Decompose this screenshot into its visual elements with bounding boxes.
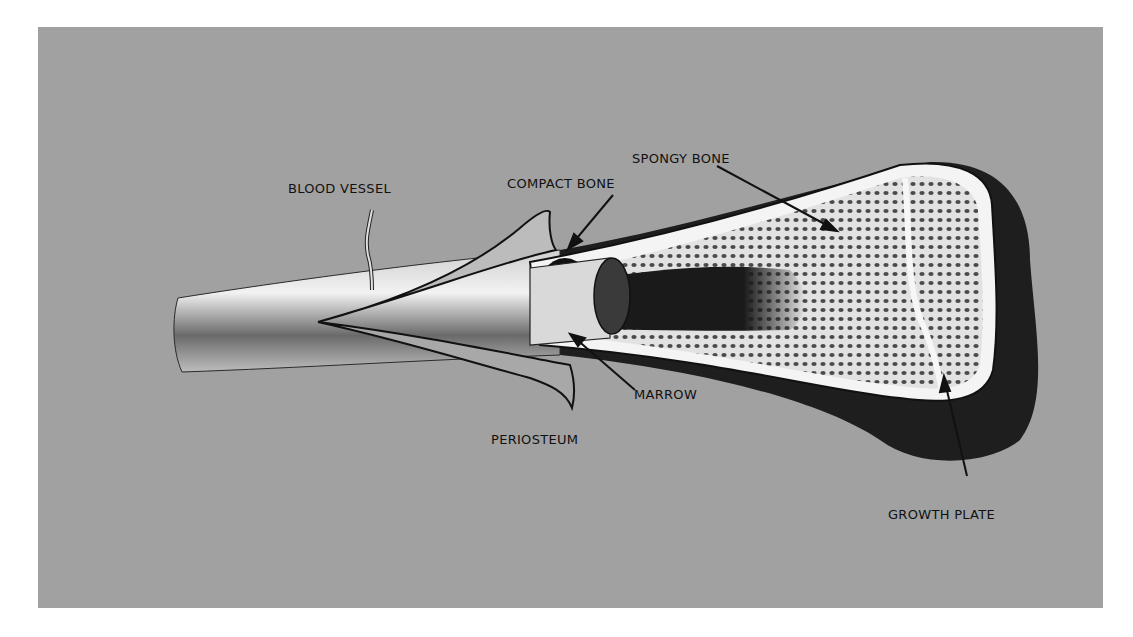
diagram-panel: BLOOD VESSEL COMPACT BONE SPONGY BONE MA… xyxy=(38,27,1103,608)
label-spongy-bone: SPONGY BONE xyxy=(632,151,730,166)
label-marrow: MARROW xyxy=(634,387,697,402)
label-compact-bone: COMPACT BONE xyxy=(507,176,615,191)
label-periosteum: PERIOSTEUM xyxy=(491,432,578,447)
label-growth-plate: GROWTH PLATE xyxy=(888,507,995,522)
label-blood-vessel: BLOOD VESSEL xyxy=(288,181,391,196)
